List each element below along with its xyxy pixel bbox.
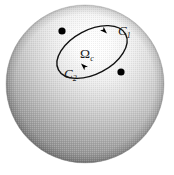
label-c2: C2 xyxy=(64,65,77,83)
label-omega-subscript: c xyxy=(90,54,94,63)
sphere-contour-illustration xyxy=(0,0,174,175)
label-c1-subscript: 1 xyxy=(127,31,131,40)
label-c2-base: C xyxy=(64,66,73,81)
contour-point-lower-right xyxy=(117,68,124,75)
label-omega-c: Ωc xyxy=(80,45,94,63)
sphere-group xyxy=(0,0,174,175)
label-omega-base: Ω xyxy=(80,46,90,61)
contour-point-upper-left xyxy=(58,27,65,34)
label-c2-subscript: 2 xyxy=(73,74,77,83)
label-c1-base: C xyxy=(118,23,127,38)
sphere-rim-shading xyxy=(6,5,164,163)
figure-canvas: C1 Ωc C2 xyxy=(0,0,174,175)
label-c1: C1 xyxy=(118,22,131,40)
